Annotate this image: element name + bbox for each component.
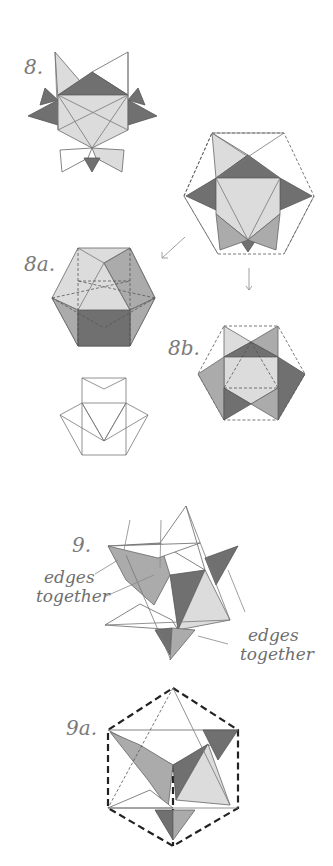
- diagram-canvas: .l{fill:#dcdcdc;stroke:#666;stroke-width…: [0, 0, 333, 866]
- step-8a-model: [52, 248, 155, 346]
- step-9-model: [105, 506, 238, 660]
- step-9a-model: [108, 688, 238, 846]
- step-8b-model: [198, 326, 305, 420]
- arrow-to-8a: [162, 237, 185, 258]
- step-8-model: [28, 52, 157, 172]
- step-8-outline-model: [184, 133, 314, 254]
- crease-pattern: [60, 378, 148, 455]
